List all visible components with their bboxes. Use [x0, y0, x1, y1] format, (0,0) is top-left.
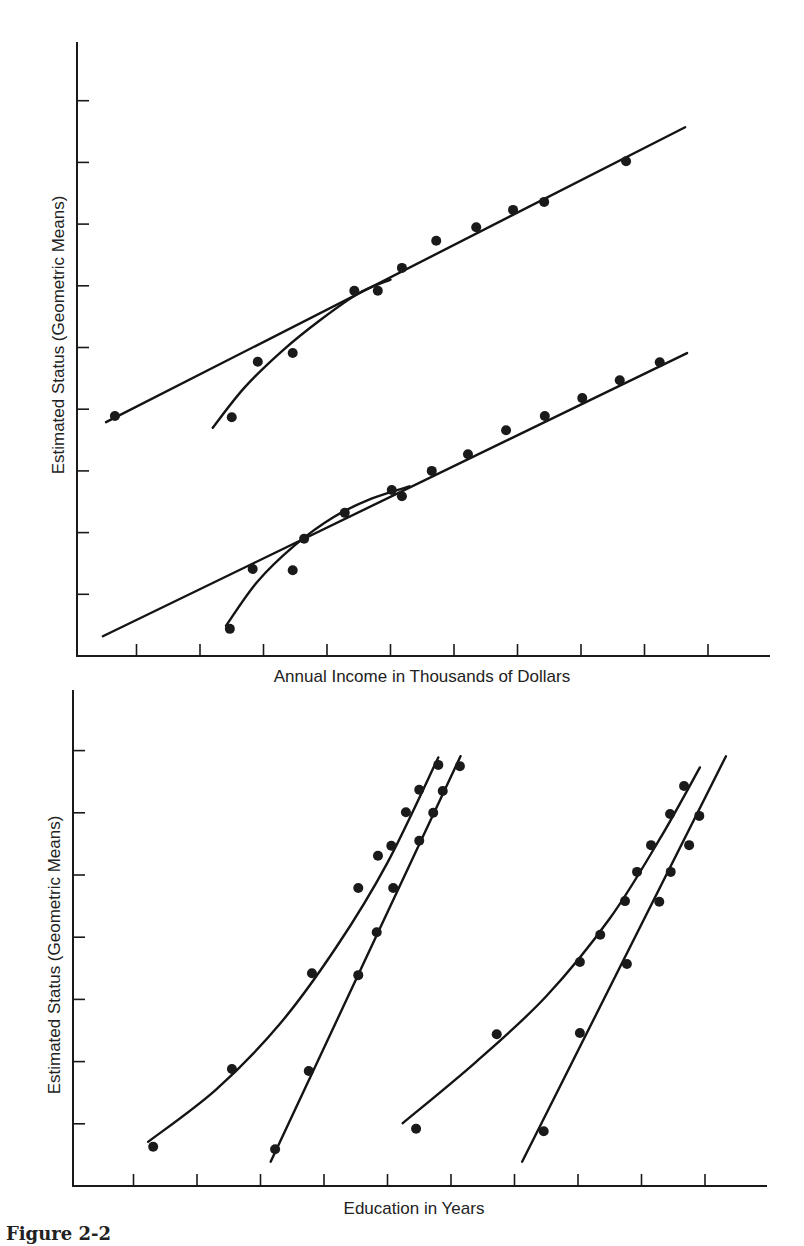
data-point-left-curve-points: [401, 807, 411, 817]
data-point-upper-points: [288, 348, 298, 358]
data-point-left-line-points: [428, 808, 438, 818]
data-point-left-curve-points: [227, 1064, 237, 1074]
data-point-right-curve-points: [646, 840, 656, 850]
income-chart: Annual Income in Thousands of Dollars Es…: [49, 42, 770, 686]
data-point-left-curve-points: [353, 883, 363, 893]
data-point-right-curve-points: [665, 809, 675, 819]
data-point-left-curve-points: [386, 841, 396, 851]
figure: Annual Income in Thousands of Dollars Es…: [0, 0, 804, 1246]
data-point-left-line-points: [438, 786, 448, 796]
data-point-left-line-points: [414, 836, 424, 846]
data-point-right-curve-points: [632, 867, 642, 877]
data-point-left-curve-points: [433, 760, 443, 770]
data-point-right-line-points: [622, 959, 632, 969]
data-point-upper-points: [253, 357, 263, 367]
education-chart: Education in Years Estimated Status (Geo…: [45, 690, 767, 1218]
data-point-lower-points: [387, 485, 397, 495]
data-point-upper-points: [227, 412, 237, 422]
data-point-left-line-points: [270, 1144, 280, 1154]
data-point-upper-points: [539, 197, 549, 207]
data-point-lower-points: [248, 564, 258, 574]
data-point-upper-points: [431, 236, 441, 246]
data-point-lower-points: [577, 393, 587, 403]
data-point-right-line-points: [539, 1126, 549, 1136]
data-point-left-line-points: [372, 927, 382, 937]
data-point-lower-points: [225, 624, 235, 634]
data-point-lower-points: [427, 466, 437, 476]
y-axis-label: Estimated Status (Geometric Means): [45, 816, 64, 1095]
data-point-right-line-points: [654, 897, 664, 907]
data-point-lower-points: [288, 565, 298, 575]
x-axis-label: Annual Income in Thousands of Dollars: [274, 667, 570, 686]
x-axis-label: Education in Years: [344, 1199, 485, 1218]
data-point-left-line-points: [304, 1066, 314, 1076]
data-point-left-curve-points: [373, 851, 383, 861]
data-point-right-curve-points: [492, 1029, 502, 1039]
data-point-lower-points: [540, 411, 550, 421]
data-point-upper-points: [471, 222, 481, 232]
data-point-lower-points: [501, 425, 511, 435]
axes: [77, 42, 770, 656]
figure-caption: Figure 2-2: [6, 1223, 111, 1244]
data-point-right-line-points: [694, 811, 704, 821]
y-axis-label: Estimated Status (Geometric Means): [49, 196, 68, 475]
data-point-right-curve-points: [620, 896, 630, 906]
data-point-lower-points: [340, 508, 350, 518]
data-point-upper-points: [397, 263, 407, 273]
data-point-left-curve-points: [148, 1142, 158, 1152]
data-point-lower-points: [655, 357, 665, 367]
upper-linear-fit: [106, 127, 685, 422]
data-point-lower-points: [463, 449, 473, 459]
data-point-right-curve-points: [595, 930, 605, 940]
data-point-upper-points: [349, 286, 359, 296]
data-point-lower-points: [615, 375, 625, 385]
data-point-left-line-points: [455, 761, 465, 771]
right-curve-fit: [403, 767, 700, 1123]
data-point-left-curve-points: [414, 785, 424, 795]
data-point-right-curve-points: [411, 1124, 421, 1134]
lower-log-fit: [226, 486, 410, 625]
data-point-upper-points: [621, 156, 631, 166]
axes: [73, 690, 767, 1186]
data-point-upper-points: [110, 411, 120, 421]
data-point-upper-points: [508, 205, 518, 215]
data-point-upper-points: [373, 286, 383, 296]
data-point-lower-points: [299, 534, 309, 544]
data-point-right-curve-points: [679, 781, 689, 791]
data-point-right-line-points: [684, 840, 694, 850]
data-point-right-line-points: [666, 867, 676, 877]
data-point-left-line-points: [388, 883, 398, 893]
lower-linear-fit: [103, 353, 687, 636]
data-point-lower-points: [397, 491, 407, 501]
left-curve-fit: [148, 757, 438, 1141]
data-point-left-curve-points: [307, 968, 317, 978]
data-point-left-line-points: [353, 970, 363, 980]
data-point-right-curve-points: [575, 957, 585, 967]
data-point-right-line-points: [575, 1028, 585, 1038]
